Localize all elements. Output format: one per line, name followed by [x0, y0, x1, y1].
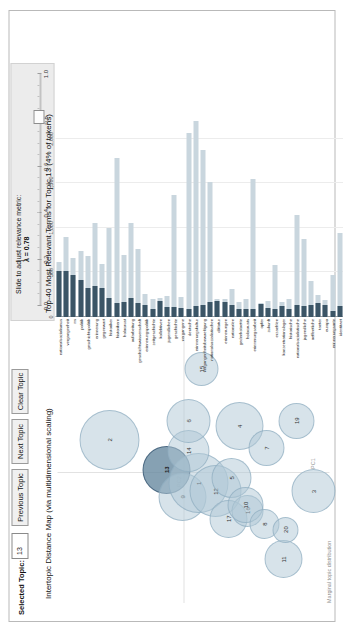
bar-term-label[interactable]: kollektiven — [157, 319, 162, 339]
bar-row[interactable] — [70, 121, 75, 317]
bar-row[interactable] — [142, 121, 147, 317]
bar-term-label[interactable]: nationalsozialistische — [294, 319, 299, 358]
bar-term-label[interactable]: geschichte — [172, 319, 177, 339]
bar-row[interactable] — [193, 121, 198, 317]
bar-term-label[interactable]: erinnerung — [93, 319, 98, 339]
bar-row[interactable] — [229, 121, 234, 317]
selected-topic-input[interactable]: 13 — [11, 533, 28, 559]
topic-bubble-11[interactable]: 11 — [264, 540, 302, 578]
bar-row[interactable] — [272, 121, 277, 317]
bar-row[interactable] — [92, 121, 97, 317]
bar-row[interactable] — [322, 121, 327, 317]
bar-row[interactable] — [164, 121, 169, 317]
slider-handle[interactable] — [33, 110, 44, 124]
bar-term-label[interactable]: erinnerungspolitik — [143, 319, 148, 352]
selected-topic-label: Selected Topic: — [16, 560, 25, 615]
bar-term-label[interactable]: historiker — [107, 319, 112, 336]
bar-row[interactable] — [106, 121, 111, 317]
bar-topic-frequency — [63, 271, 68, 317]
bar-term-label[interactable]: jugendliche — [301, 319, 306, 340]
topic-bubble-7[interactable]: 7 — [248, 430, 284, 466]
bar-row[interactable] — [265, 121, 270, 317]
topic-bubble-3[interactable]: 3 — [291, 469, 335, 513]
bar-term-label[interactable]: diktatur — [215, 319, 220, 333]
bar-term-label[interactable]: jugendlichen — [165, 319, 170, 343]
bar-row[interactable] — [337, 121, 342, 317]
bar-row[interactable] — [294, 121, 299, 317]
top-terms-barchart[interactable]: 05001,0001,5002,000nationalsozialismusve… — [55, 17, 285, 317]
bar-term-label[interactable]: gegenwart — [100, 319, 105, 339]
bar-term-label[interactable]: vergangene — [179, 319, 184, 341]
bar-term-label[interactable]: oeffentliche — [309, 319, 314, 340]
bar-term-label[interactable]: erzaehlen — [273, 319, 278, 337]
bar-row[interactable] — [258, 121, 263, 317]
bar-topic-frequency — [171, 307, 176, 317]
bar-term-label[interactable]: gedenkstaette — [237, 319, 242, 345]
bar-row[interactable] — [236, 121, 241, 317]
bar-row[interactable] — [56, 121, 61, 317]
bar-term-label[interactable]: holocaust — [121, 319, 126, 337]
bar-term-label[interactable]: historikern — [114, 319, 119, 338]
bar-term-label[interactable]: identitaet — [337, 319, 342, 336]
slider-tick — [37, 305, 41, 306]
bar-row[interactable] — [207, 121, 212, 317]
previous-topic-button[interactable]: Previous Topic — [11, 469, 28, 526]
bar-term-label[interactable]: deutsche — [186, 319, 191, 336]
bar-row[interactable] — [171, 121, 176, 317]
intertopic-distance-map[interactable]: PC1 PC2 21391121465171610811204719315 — [57, 331, 329, 603]
bar-term-label[interactable]: geschichtspolitik — [85, 319, 90, 350]
bar-term-label[interactable]: holocausts — [244, 319, 249, 339]
bar-row[interactable] — [222, 121, 227, 317]
bar-row[interactable] — [135, 121, 140, 317]
bar-row[interactable] — [85, 121, 90, 317]
bar-term-label[interactable]: nationalsozialismus — [57, 319, 62, 355]
bar-row[interactable] — [250, 121, 255, 317]
bar-term-label[interactable]: europa — [323, 319, 328, 332]
bar-row[interactable] — [63, 121, 68, 317]
bar-row[interactable] — [99, 121, 104, 317]
bar-term-label[interactable]: zeitgeschichte — [150, 319, 155, 346]
bar-term-label[interactable]: nationalsozialistischen — [208, 319, 213, 361]
bar-row[interactable] — [315, 121, 320, 317]
bar-term-label[interactable]: erinnerungsarbeit — [251, 319, 256, 352]
bar-row[interactable] — [157, 121, 162, 317]
bar-term-label[interactable]: vergangenheit — [64, 319, 69, 346]
bar-term-label[interactable]: opfer — [258, 319, 263, 329]
topic-bubble-20[interactable]: 20 — [272, 517, 298, 543]
bar-term-label[interactable]: vergangenheitsbewaeltigung — [201, 319, 206, 372]
bar-row[interactable] — [301, 121, 306, 317]
bar-term-label[interactable]: erinnerungsorte — [330, 319, 335, 348]
bar-term-label[interactable]: ns — [71, 319, 76, 323]
bar-term-label[interactable]: zukunft — [265, 319, 270, 333]
topic-bubble-6[interactable]: 6 — [166, 399, 210, 443]
bar-term-label[interactable]: konzentrationslager — [280, 319, 285, 356]
bar-term-label[interactable]: geschichtswissenschaft — [136, 319, 141, 363]
bar-row[interactable] — [286, 121, 291, 317]
bar-row[interactable] — [243, 121, 248, 317]
bar-row[interactable] — [214, 121, 219, 317]
bar-term-label[interactable]: taeter — [316, 319, 321, 330]
bar-row[interactable] — [114, 121, 119, 317]
barchart-tick-label: 2,000 — [47, 132, 53, 146]
bar-term-label[interactable]: historische — [287, 319, 292, 339]
bar-term-label[interactable]: nationalen — [229, 319, 234, 338]
bar-row[interactable] — [279, 121, 284, 317]
bar-term-label[interactable]: erinnerungskultur — [193, 319, 198, 351]
clear-topic-button[interactable]: Clear Topic — [11, 369, 28, 414]
bar-row[interactable] — [200, 121, 205, 317]
bar-row[interactable] — [150, 121, 155, 317]
topic-bubble-19[interactable]: 19 — [278, 403, 314, 439]
slider-minor-tick — [37, 96, 39, 97]
bar-row[interactable] — [78, 121, 83, 317]
bar-row[interactable] — [121, 121, 126, 317]
bar-row[interactable] — [330, 121, 335, 317]
bar-term-label[interactable]: politik — [78, 319, 83, 330]
bar-term-label[interactable]: aufarbeitung — [129, 319, 134, 342]
next-topic-button[interactable]: Next Topic — [11, 419, 28, 464]
bar-row[interactable] — [308, 121, 313, 317]
bar-term-label[interactable]: erinnerungen — [222, 319, 227, 344]
topic-bubble-2[interactable]: 2 — [79, 410, 139, 470]
bar-row[interactable] — [186, 121, 191, 317]
bar-row[interactable] — [128, 121, 133, 317]
bar-row[interactable] — [178, 121, 183, 317]
